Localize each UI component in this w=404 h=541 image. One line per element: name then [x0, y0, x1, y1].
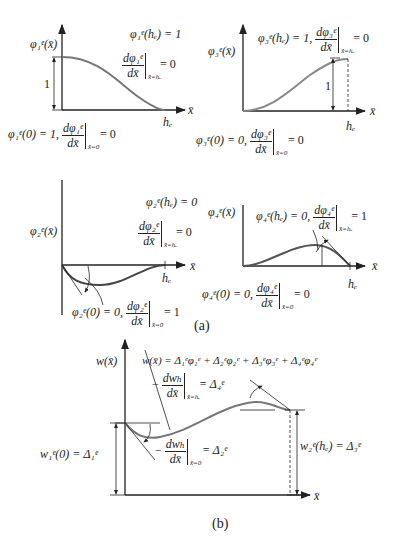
- phi1-y-label: φ₁ᵉ(x̄): [30, 38, 57, 50]
- phi2-end-slope: dφ₂ᵉdx̄x̄=hₑ= 0: [138, 220, 192, 247]
- caption-b: (b): [212, 516, 228, 532]
- panel-b-start-value: w₁ᵉ(0) = Δ₁ᵉ: [40, 448, 98, 460]
- phi1-start-bc: φ₁ᵉ(0) = 1, dφ₁ᵉdx̄x̄=0= 0: [8, 122, 116, 149]
- phi1-height-label: 1: [44, 78, 50, 90]
- phi1-he-label: hₑ: [163, 116, 172, 128]
- phi2-start-bc: φ₂ᵉ(0) = 0, dφ₂ᵉdx̄x̄=0= 1: [72, 300, 180, 327]
- phi3-x-axis-label: x̄: [370, 105, 375, 117]
- panel-b-end-value: w₂ᵉ(hₑ) = Δ₃ᵉ: [300, 440, 361, 452]
- panel-b-end-slope: − dwₕdx̄x̄=hₑ= Δ₄ᵉ: [152, 372, 224, 399]
- phi3-he-label: hₑ: [346, 120, 355, 132]
- panel-b-interpolation: w(x̄) = Δ₁ᵉφ₁ᵉ + Δ₂ᵉφ₂ᵉ + Δ₃ᵉφ₃ᵉ + Δ₄ᵉφ₄…: [142, 355, 317, 366]
- phi3-start-bc: φ₃ᵉ(0) = 0, dφ₃ᵉdx̄x̄=0= 0: [196, 128, 304, 155]
- panel-b-start-slope: − dwₕdx̄x̄=0= Δ₂ᵉ: [155, 438, 227, 465]
- phi4-he-label: hₑ: [348, 278, 357, 290]
- panel-b-x-axis-label: x̄: [314, 490, 319, 502]
- phi4-x-axis-label: x̄: [372, 260, 377, 272]
- phi1-x-axis-label: x̄: [188, 104, 193, 116]
- phi4-start-bc: φ₄ᵉ(0) = 0, dφ₄ᵉdx̄x̄=0= 0: [202, 282, 310, 309]
- phi4-end-bc: φ₄ᵉ(hₑ) = 0, dφ₄ᵉdx̄x̄=hₑ= 1: [256, 204, 367, 231]
- caption-a: (a): [194, 318, 210, 334]
- phi2-x-axis-label: x̄: [190, 260, 195, 272]
- phi1-end-value: φ₁ᵉ(hₑ) = 1: [130, 28, 181, 40]
- phi3-end-bc: φ₃ᵉ(hₑ) = 1, dφ₃ᵉdx̄x̄=hₑ= 0: [258, 26, 369, 53]
- phi2-y-label: φ₂ᵉ(x̄): [30, 225, 57, 237]
- phi1-end-slope: dφ₁ᵉdx̄x̄=hₑ= 0: [122, 52, 176, 79]
- phi4-y-label: φ₄ᵉ(x̄): [208, 206, 235, 218]
- phi3-y-label: φ₃ᵉ(x̄): [208, 45, 235, 57]
- phi2-he-label: hₑ: [162, 272, 171, 284]
- phi2-end-value: φ₂ᵉ(hₑ) = 0: [146, 196, 197, 208]
- panel-b-y-label: w(x̄): [96, 355, 117, 367]
- phi3-height-label: 1: [325, 80, 331, 92]
